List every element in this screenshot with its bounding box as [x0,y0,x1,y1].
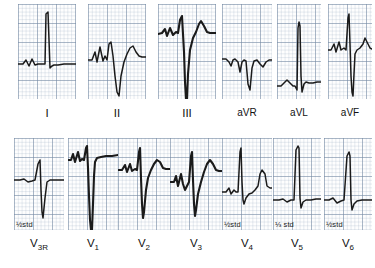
ecg-grid-V2 [118,138,170,230]
ecg-trace-svg-aVL [277,4,321,99]
lead-label-text-aVF: aVF [341,107,359,118]
ecg-grid-V1 [68,138,118,230]
lead-label-text-II: II [114,107,120,119]
ecg-waveform-V5 [273,146,321,208]
ecg-trace-svg-V1 [68,138,118,230]
lead-panel-V1: V1 [68,138,118,230]
lead-label-aVF: aVF [328,107,372,118]
ecg-trace-svg-aVR [222,4,272,99]
ecg-grid-aVR [222,4,272,99]
lead-panel-V4: ½std V4 [222,138,272,230]
lead-label-V5: V5 [273,237,321,252]
ecg-trace-svg-III [158,4,216,99]
ecg-trace-svg-V3R [14,138,64,230]
lead-panel-aVL: aVL [277,4,321,99]
calibration-label-V6: ½std [326,220,343,229]
lead-label-III: III [158,107,216,119]
lead-panel-II: II [88,4,146,99]
ecg-waveform-I [18,12,76,68]
lead-panel-V3: V3 [170,138,222,230]
lead-label-sub-V4: 4 [249,243,253,252]
lead-label-II: II [88,107,146,119]
ecg-waveform-aVF [328,14,372,96]
lead-panel-aVR: aVR [222,4,272,99]
calibration-label-V3R: ½std [16,220,33,229]
lead-panel-V2: V2 [118,138,170,230]
ecg-waveform-V4 [222,148,272,204]
lead-label-sub-V1: 1 [95,243,99,252]
lead-label-text-aVR: aVR [237,107,256,118]
ecg-trace-svg-II [88,4,146,99]
ecg-grid-V4: ½std [222,138,272,230]
calibration-label-V4: ½std [224,220,241,229]
ecg-row-precordial-leads: ½std V3R V1 V2 [0,134,375,268]
lead-panel-V5: ⅓ std V5 [273,138,321,230]
lead-label-V6: V6 [324,237,372,252]
ecg-waveform-V3R [14,160,64,218]
lead-label-sub-V6: 6 [350,243,354,252]
lead-panel-aVF: aVF [328,4,372,99]
lead-panel-V3R: ½std V3R [14,138,64,230]
ecg-grid-II [88,4,146,99]
ecg-grid-aVL [277,4,321,99]
ecg-grid-V5: ⅓ std [273,138,321,230]
ecg-trace-svg-V2 [118,138,170,230]
lead-label-text-V2: V [138,237,146,249]
ecg-figure: I II III [0,0,375,268]
ecg-row-limb-leads: I II III [0,0,375,134]
lead-label-aVR: aVR [222,107,272,118]
ecg-trace-svg-V6 [324,138,372,230]
lead-label-V3: V3 [170,237,222,252]
ecg-waveform-III [158,16,216,99]
lead-panel-III: III [158,4,216,99]
ecg-trace-svg-V5 [273,138,321,230]
ecg-grid-III [158,4,216,99]
ecg-grid-V3R: ½std [14,138,64,230]
ecg-trace-svg-I [18,4,76,99]
ecg-waveform-V2 [118,148,170,218]
lead-label-aVL: aVL [277,107,321,118]
ecg-grid-aVF [328,4,372,99]
calibration-label-V5: ⅓ std [275,220,294,229]
ecg-waveform-aVR [222,59,272,90]
lead-label-sub-V3: 3 [198,243,202,252]
ecg-grid-I [18,4,76,99]
ecg-trace-svg-V4 [222,138,272,230]
ecg-trace-svg-V3 [170,138,222,230]
lead-label-I: I [18,107,76,119]
lead-label-V2: V2 [118,237,170,252]
lead-label-text-V3: V [190,237,198,249]
lead-panel-V6: ½std V6 [324,138,372,230]
ecg-waveform-II [88,42,146,96]
lead-label-text-aVL: aVL [290,107,308,118]
lead-label-sub-V2: 2 [146,243,150,252]
ecg-grid-V3 [170,138,222,230]
lead-label-text-V6: V [342,237,350,249]
lead-label-text-I: I [45,107,48,119]
ecg-waveform-aVL [277,22,321,92]
lead-label-sub-V3R: 3R [38,243,48,252]
ecg-grid-V6: ½std [324,138,372,230]
lead-label-V4: V4 [222,237,272,252]
lead-label-text-V5: V [291,237,299,249]
lead-label-text-III: III [182,107,192,119]
lead-label-text-V4: V [241,237,249,249]
lead-label-V1: V1 [68,237,118,252]
ecg-waveform-V3 [170,152,222,216]
lead-panel-I: I [18,4,76,99]
lead-label-V3R: V3R [14,237,64,252]
lead-label-sub-V5: 5 [299,243,303,252]
ecg-trace-svg-aVF [328,4,372,99]
lead-label-text-V3R: V [30,237,38,249]
lead-label-text-V1: V [87,237,95,249]
ecg-waveform-V6 [324,152,372,210]
ecg-waveform-V1 [68,146,118,230]
